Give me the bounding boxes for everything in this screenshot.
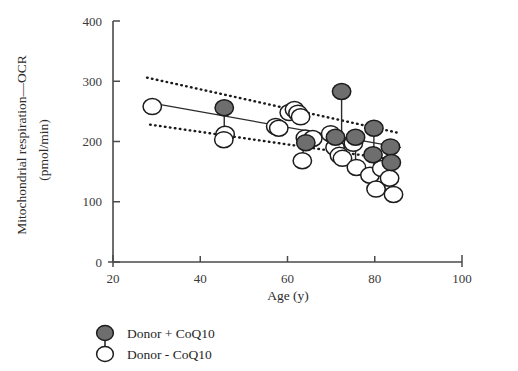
- data-point-filled: [381, 139, 399, 155]
- data-point-open: [270, 120, 288, 136]
- data-point-filled: [326, 129, 344, 145]
- y-tick-label: 200: [83, 134, 103, 149]
- data-point-open: [143, 99, 161, 115]
- data-points-donor-minus-coq10: [143, 99, 403, 203]
- x-axis-title: Age (y): [267, 288, 309, 303]
- legend-item-label: Donor + CoQ10: [127, 326, 215, 341]
- legend: Donor + CoQ10Donor - CoQ10: [97, 326, 216, 362]
- x-tick-label: 20: [107, 271, 120, 286]
- data-point-filled: [364, 147, 382, 163]
- data-point-open: [380, 170, 398, 186]
- y-axis-units: (pmol/min): [36, 119, 51, 181]
- legend-item-label: Donor - CoQ10: [127, 347, 212, 362]
- data-point-filled: [365, 120, 383, 136]
- data-point-filled: [346, 129, 364, 145]
- figure-container: 20406080100 0100200300400 Age (y) Mitoch…: [0, 0, 518, 371]
- data-point-filled: [332, 83, 350, 99]
- data-point-open: [293, 153, 311, 169]
- data-point-open: [384, 187, 402, 203]
- y-tick-label: 0: [96, 255, 103, 270]
- data-point-filled: [215, 100, 233, 116]
- y-axis-title: Mitochondrial respiration—OCR: [14, 55, 29, 235]
- y-tick-label: 400: [83, 14, 103, 29]
- data-point-filled: [382, 155, 400, 171]
- y-tick-label: 300: [83, 74, 103, 89]
- data-point-open: [215, 132, 233, 148]
- scatter-chart: 20406080100 0100200300400 Age (y) Mitoch…: [0, 0, 518, 371]
- data-point-open: [291, 109, 309, 125]
- legend-marker-open-icon: [97, 347, 114, 362]
- y-tick-label: 100: [83, 194, 103, 209]
- y-axis-ticks: 0100200300400: [83, 14, 121, 270]
- x-tick-label: 100: [452, 271, 472, 286]
- legend-marker-filled-icon: [97, 326, 114, 341]
- x-tick-label: 80: [368, 271, 381, 286]
- plot-area: [143, 78, 403, 203]
- axes: [113, 21, 462, 262]
- x-tick-label: 60: [281, 271, 294, 286]
- x-tick-label: 40: [194, 271, 207, 286]
- data-point-filled: [297, 135, 315, 151]
- x-axis-ticks: 20406080100: [107, 255, 472, 286]
